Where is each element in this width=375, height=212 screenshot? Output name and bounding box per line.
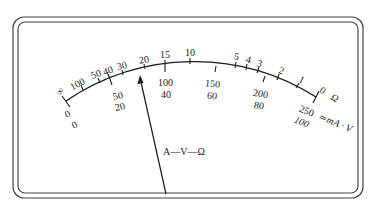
label-ohm-4: 4 bbox=[245, 53, 253, 65]
ohm-scale-labels: ∞ 100 50 40 30 20 15 10 5 4 3 2 1 0 Ω bbox=[53, 47, 340, 104]
label-dc100-20: 20 bbox=[114, 100, 126, 113]
label-ohm-0: 0 bbox=[318, 84, 328, 96]
label-ohm-50: 50 bbox=[89, 67, 102, 81]
tick-dc-50 bbox=[110, 79, 112, 85]
label-dc100-0: 0 bbox=[69, 119, 79, 131]
label-ohm-2: 2 bbox=[277, 64, 286, 76]
label-ohm-5: 5 bbox=[233, 51, 240, 63]
tick-4 bbox=[246, 64, 247, 70]
label-dc100-40: 40 bbox=[161, 89, 171, 100]
pointer-label: A—V—Ω bbox=[163, 146, 205, 157]
label-dc250-150: 150 bbox=[205, 77, 221, 90]
label-ohm-40: 40 bbox=[101, 64, 114, 78]
label-dc100-60: 60 bbox=[207, 90, 218, 102]
label-ohm-unit: Ω bbox=[329, 91, 341, 104]
label-ohm-10: 10 bbox=[185, 47, 195, 58]
label-ohm-3: 3 bbox=[256, 57, 264, 69]
label-dc250-100: 100 bbox=[158, 77, 173, 88]
tick-5 bbox=[235, 62, 236, 68]
tick-dc-150 bbox=[215, 66, 216, 72]
meter-face-diagram: ∞ 100 50 40 30 20 15 10 5 4 3 2 1 0 Ω 0 … bbox=[0, 0, 375, 212]
label-ohm-30: 30 bbox=[116, 59, 128, 72]
label-dc-unit: ≃mA · V bbox=[317, 111, 355, 135]
tick-inf bbox=[62, 96, 70, 107]
tick-dc-200 bbox=[263, 76, 265, 82]
label-ohm-20: 20 bbox=[138, 53, 150, 65]
label-infinity: ∞ bbox=[53, 85, 66, 97]
label-ohm-15: 15 bbox=[160, 49, 170, 60]
label-dc100-80: 80 bbox=[253, 99, 265, 112]
dc-scale-labels: 0 0 50 20 100 40 150 60 200 80 250 100 ≃… bbox=[62, 77, 355, 135]
pointer-arrowhead-icon bbox=[138, 75, 144, 84]
label-ohm-1: 1 bbox=[297, 73, 306, 85]
label-dc250-0: 0 bbox=[62, 108, 72, 120]
